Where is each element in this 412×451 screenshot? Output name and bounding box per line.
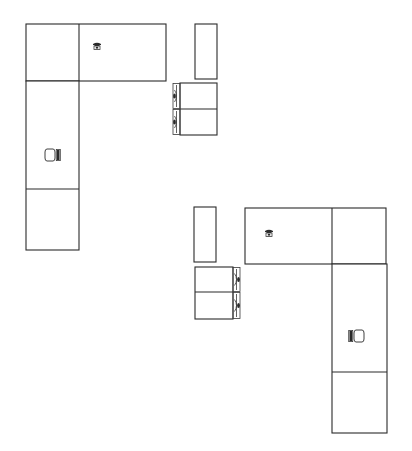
storage-cabinet	[195, 24, 217, 79]
floor-plan-canvas	[0, 0, 412, 451]
drawer-handle-icon	[233, 293, 240, 319]
drawer-handle-icon	[173, 110, 180, 135]
telephone-icon	[265, 230, 273, 237]
drawer-handle-icon	[233, 268, 240, 292]
desk-side-surface	[26, 81, 79, 250]
telephone-icon	[93, 43, 101, 50]
drawer-handle-icon	[173, 84, 180, 109]
office-chair-icon	[45, 149, 60, 161]
workstation-1	[26, 24, 217, 250]
storage-cabinet	[194, 207, 216, 262]
floor-plan-svg	[0, 0, 412, 451]
office-chair-icon	[349, 330, 364, 342]
desk-top-surface	[26, 24, 166, 81]
workstation-2	[194, 207, 387, 433]
desk-side-surface	[332, 264, 387, 433]
file-cabinet	[195, 267, 233, 319]
